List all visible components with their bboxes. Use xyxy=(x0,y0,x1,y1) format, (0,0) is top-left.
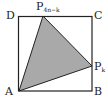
label-c: C xyxy=(94,10,102,21)
label-p-top: P4n−k xyxy=(36,1,60,15)
label-p-right: Pk xyxy=(94,61,105,75)
label-p-right-sub: k xyxy=(101,66,105,73)
geometry-figure xyxy=(0,0,108,100)
label-d: D xyxy=(6,10,15,21)
label-p-top-sub: 4n−k xyxy=(43,6,59,13)
label-a: A xyxy=(5,86,13,97)
shaded-triangle xyxy=(19,16,92,91)
label-b: B xyxy=(94,86,102,97)
